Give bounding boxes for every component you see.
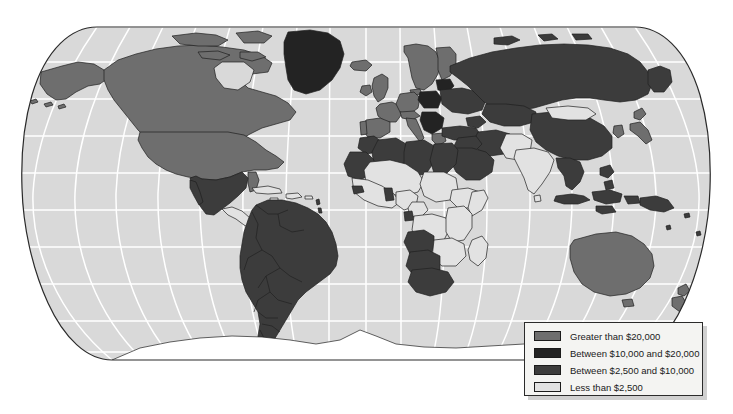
legend-item-lower-middle: Between $2,500 and $10,000 (525, 362, 702, 378)
region-equatorial-guinea (404, 211, 414, 221)
legend-swatch-lower-middle (534, 365, 561, 375)
legend-label-high: Greater than $20,000 (570, 331, 660, 342)
legend-item-upper-middle: Between $10,000 and $20,000 (525, 345, 702, 361)
map-figure: Greater than $20,000 Between $10,000 and… (0, 0, 733, 414)
legend-swatch-upper-middle (534, 348, 561, 358)
region-portugal (360, 121, 367, 135)
map-legend: Greater than $20,000 Between $10,000 and… (524, 322, 703, 396)
legend-label-lower-middle: Between $2,500 and $10,000 (570, 365, 694, 376)
legend-item-high: Greater than $20,000 (525, 328, 702, 344)
legend-label-low: Less than $2,500 (570, 382, 643, 393)
region-sri-lanka (534, 195, 541, 202)
legend-item-low: Less than $2,500 (525, 379, 702, 395)
legend-label-upper-middle: Between $10,000 and $20,000 (570, 348, 699, 359)
legend-swatch-low (534, 382, 561, 392)
region-tasmania (622, 299, 634, 307)
region-mongolia (546, 106, 596, 120)
region-ghana (384, 188, 394, 201)
legend-swatch-high (534, 331, 561, 341)
